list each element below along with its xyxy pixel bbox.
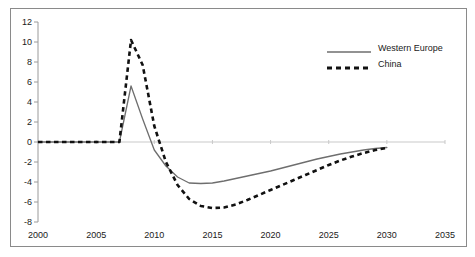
x-tick-label: 2010 [144,230,164,240]
x-tick-label: 2025 [319,230,339,240]
x-tick-label: 2035 [435,230,455,240]
y-tick-label: -4 [8,177,32,187]
y-tick-label: -2 [8,157,32,167]
x-tick-label: 2015 [202,230,222,240]
y-tick-label: -8 [8,217,32,227]
y-tick-label: -6 [8,197,32,207]
x-tick-label: 2000 [28,230,48,240]
y-tick-label: 0 [8,137,32,147]
y-tick-label: 8 [8,57,32,67]
x-tick-label: 2030 [377,230,397,240]
x-tick-label: 2005 [86,230,106,240]
y-tick-label: 6 [8,77,32,87]
legend-label: Western Europe [378,43,443,53]
legend-item: China [327,56,443,72]
plot-area [0,0,475,257]
chart-container: 121086420-2-4-6-8 2000200520102015202020… [0,0,475,257]
y-tick-label: 2 [8,117,32,127]
series-line-western-europe [38,86,387,184]
legend-swatch-china [327,59,371,69]
y-tick-label: 10 [8,37,32,47]
legend-item: Western Europe [327,40,443,56]
legend-label: China [378,59,402,69]
legend-swatch-western-europe [327,43,371,53]
x-tick-label: 2020 [261,230,281,240]
y-tick-label: 4 [8,97,32,107]
chart-legend: Western EuropeChina [327,40,443,72]
y-tick-label: 12 [8,17,32,27]
